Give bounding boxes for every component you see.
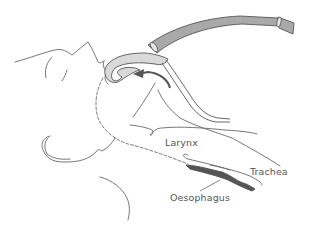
pharynx-back-line xyxy=(158,90,280,166)
chin-line xyxy=(96,138,115,152)
epiglottis-line xyxy=(130,125,257,135)
label-trachea: Trachea xyxy=(250,166,288,177)
jaw-line-inner xyxy=(45,138,70,159)
oesophagus-pointer xyxy=(200,180,220,191)
airway-device xyxy=(105,16,294,122)
insertion-arrow-icon xyxy=(143,72,170,88)
inflation-line xyxy=(166,60,230,119)
neck-line xyxy=(100,177,129,220)
device-cuff xyxy=(105,53,168,83)
face-profile xyxy=(15,42,104,63)
label-oesophagus: Oesophagus xyxy=(170,192,230,203)
airway-diagram xyxy=(0,0,309,231)
oesophagus-shape xyxy=(186,165,255,191)
tongue-line xyxy=(133,83,155,117)
airway-dashed-path xyxy=(96,78,188,164)
device-tube xyxy=(148,16,280,53)
inflation-line-inner xyxy=(162,63,230,122)
label-larynx: Larynx xyxy=(165,137,198,148)
cheek-line xyxy=(62,70,67,81)
eye-line xyxy=(45,57,52,78)
jaw-line xyxy=(42,136,96,162)
